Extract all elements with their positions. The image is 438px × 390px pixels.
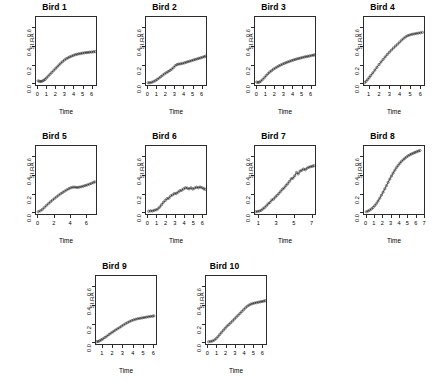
data-layer	[145, 145, 207, 215]
panel-bird-8: Bird 80.00.20.40.601234567SI.RATime	[328, 129, 437, 257]
x-axis-label: Time	[145, 237, 207, 244]
panel-title: Bird 9	[60, 261, 169, 271]
x-tick-label: 1	[97, 350, 107, 356]
x-axis: 1357	[254, 215, 316, 229]
y-axis-label: SI.RA	[247, 20, 254, 64]
y-axis-label: SI.RA	[138, 149, 145, 193]
x-tick-mark	[37, 215, 38, 218]
data-layer	[145, 16, 207, 86]
plot-area: 0.00.20.40.60123456SI.RATime	[145, 16, 207, 86]
x-axis: 0246	[35, 215, 97, 229]
data-layer	[254, 16, 316, 86]
panel-title: Bird 6	[110, 131, 219, 141]
x-tick-label: 4	[65, 220, 75, 226]
x-tick-mark	[147, 86, 148, 89]
x-tick-mark	[174, 86, 175, 89]
x-tick-label: 6	[197, 91, 207, 97]
y-tick-mark	[142, 212, 145, 213]
x-tick-mark	[226, 345, 227, 348]
x-tick-mark	[283, 86, 284, 89]
x-tick-label: 5	[289, 220, 299, 226]
x-tick-mark	[156, 86, 157, 89]
multi-panel-growth-figure: Bird 10.00.20.40.60123456SI.RATimeBird 2…	[0, 0, 438, 390]
y-axis-label: SI.RA	[247, 149, 254, 193]
y-tick-label: 0.0	[136, 82, 142, 96]
x-tick-mark	[46, 86, 47, 89]
data-layer	[35, 145, 97, 215]
y-tick-label: 0.2	[136, 64, 142, 78]
y-axis-label: SI.RA	[28, 20, 35, 64]
y-tick-label: 0.2	[196, 323, 202, 337]
y-axis-label: SI.RA	[28, 149, 35, 193]
x-tick-mark	[276, 215, 277, 218]
plot-area: 0.00.20.40.60123456SI.RATime	[205, 275, 267, 345]
x-tick-mark	[244, 345, 245, 348]
y-tick-label: 0.2	[354, 193, 360, 207]
x-tick-label: 2	[374, 91, 384, 97]
panel-bird-7: Bird 70.00.20.40.61357SI.RATime	[219, 129, 328, 257]
x-tick-mark	[294, 215, 295, 218]
y-axis-label: SI.RA	[198, 279, 205, 323]
x-tick-mark	[183, 86, 184, 89]
x-tick-mark	[312, 215, 313, 218]
y-tick-mark	[142, 83, 145, 84]
y-tick-label: 0.0	[136, 211, 142, 225]
x-axis-label: Time	[254, 108, 316, 115]
plot-area: 0.00.20.40.60123456SI.RATime	[35, 16, 97, 86]
x-tick-mark	[207, 345, 208, 348]
y-axis-label: SI.RA	[88, 279, 95, 323]
y-tick-mark	[360, 212, 363, 213]
plot-area: 0.00.20.40.60123456SI.RATime	[145, 145, 207, 215]
y-tick-mark	[202, 342, 205, 343]
x-tick-label: 6	[87, 91, 97, 97]
y-tick-label: 0.0	[26, 82, 32, 96]
x-tick-mark	[54, 215, 55, 218]
y-tick-label: 0.2	[26, 64, 32, 78]
x-tick-label: 3	[384, 91, 394, 97]
x-tick-mark	[216, 345, 217, 348]
panel-bird-10: Bird 100.00.20.40.60123456SI.RATime	[170, 259, 279, 387]
x-tick-mark	[112, 345, 113, 348]
fit-line	[365, 32, 423, 82]
x-tick-mark	[369, 86, 370, 89]
plot-area: 0.00.20.40.60246SI.RATime	[35, 145, 97, 215]
y-tick-label: 0.0	[196, 341, 202, 355]
y-tick-label: 0.0	[354, 211, 360, 225]
y-tick-mark	[251, 194, 254, 195]
x-axis-label: Time	[35, 108, 97, 115]
y-tick-label: 0.2	[26, 193, 32, 207]
x-axis-label: Time	[205, 367, 267, 374]
x-axis: 0123456	[254, 86, 316, 100]
x-tick-mark	[302, 86, 303, 89]
x-tick-mark	[262, 345, 263, 348]
x-axis-label: Time	[363, 108, 425, 115]
y-tick-label: 0.0	[245, 82, 251, 96]
x-tick-label: 3	[271, 220, 281, 226]
y-tick-mark	[251, 65, 254, 66]
x-axis-label: Time	[95, 367, 157, 374]
x-tick-label: 1	[364, 91, 374, 97]
x-axis-label: Time	[254, 237, 316, 244]
x-tick-label: 6	[306, 91, 316, 97]
panel-bird-1: Bird 10.00.20.40.60123456SI.RATime	[0, 0, 109, 128]
x-tick-mark	[292, 86, 293, 89]
x-tick-mark	[399, 215, 400, 218]
x-tick-mark	[407, 215, 408, 218]
fit-line	[366, 151, 420, 212]
x-tick-label: 1	[253, 220, 263, 226]
x-tick-mark	[102, 345, 103, 348]
y-tick-mark	[251, 212, 254, 213]
x-tick-mark	[253, 345, 254, 348]
y-tick-mark	[251, 83, 254, 84]
x-tick-label: 3	[117, 350, 127, 356]
x-tick-mark	[55, 86, 56, 89]
panel-title: Bird 2	[110, 2, 219, 12]
y-tick-mark	[32, 194, 35, 195]
x-tick-mark	[382, 215, 383, 218]
data-layer	[363, 145, 425, 215]
x-tick-label: 6	[415, 91, 425, 97]
x-tick-label: 6	[197, 220, 207, 226]
x-tick-mark	[391, 215, 392, 218]
plot-area: 0.00.20.40.6123456SI.RATime	[95, 275, 157, 345]
x-tick-label: 7	[419, 220, 429, 226]
